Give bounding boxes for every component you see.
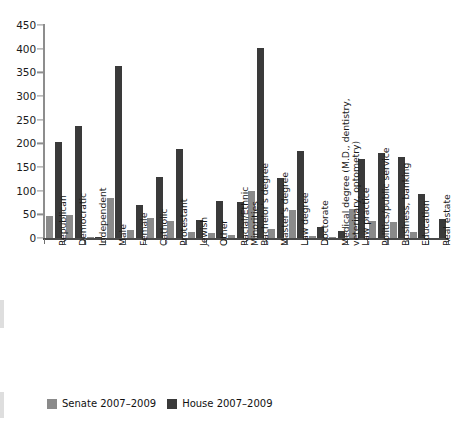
x-tick-label: Democratic bbox=[78, 193, 88, 246]
y-tick-label: 250 bbox=[16, 114, 36, 125]
x-tick-label: Female bbox=[139, 213, 149, 246]
chart-legend: Senate 2007–2009 House 2007–2009 bbox=[47, 399, 273, 409]
x-tick-label: Catholic bbox=[159, 209, 169, 246]
bar-senate bbox=[228, 235, 235, 238]
x-tick-label: Other bbox=[219, 220, 229, 246]
x-tick-label: Protestant bbox=[179, 199, 189, 246]
bar-group bbox=[106, 25, 126, 238]
y-tick-label: 100 bbox=[16, 185, 36, 196]
legend-label-senate: Senate 2007–2009 bbox=[62, 399, 156, 409]
x-tick-label: Racial/Ethnic Minorities bbox=[240, 187, 259, 246]
legend-swatch-senate bbox=[47, 399, 57, 409]
y-tick-label: 450 bbox=[16, 20, 36, 31]
bar-group bbox=[207, 25, 227, 238]
legend-item-senate: Senate 2007–2009 bbox=[47, 399, 156, 409]
y-tick-label: 300 bbox=[16, 91, 36, 102]
bar-senate bbox=[127, 230, 134, 238]
x-tick-label: Medical degree (M.D., dentistry, veterin… bbox=[341, 98, 360, 246]
x-tick-mark bbox=[44, 239, 45, 244]
legend-item-house: House 2007–2009 bbox=[167, 399, 272, 409]
x-tick-label: Education bbox=[421, 200, 431, 246]
x-tick-label: Bachelor's degree bbox=[260, 163, 270, 246]
bar-group bbox=[187, 25, 207, 238]
y-tick-label: 400 bbox=[16, 43, 36, 54]
x-tick-label: Republican bbox=[58, 195, 68, 246]
bar-senate bbox=[46, 216, 53, 238]
y-tick-label: 50 bbox=[23, 209, 36, 220]
x-tick-label: Law degree bbox=[300, 192, 310, 246]
x-tick-label: Master's degree bbox=[280, 172, 290, 246]
x-tick-label: Male bbox=[118, 224, 128, 246]
bar-group bbox=[146, 25, 166, 238]
y-tick-label: 200 bbox=[16, 138, 36, 149]
x-tick-label: Real estate bbox=[442, 194, 452, 246]
legend-label-house: House 2007–2009 bbox=[182, 399, 272, 409]
chart-figure: 050100150200250300350400450 RepublicanDe… bbox=[0, 0, 458, 421]
y-axis-labels: 050100150200250300350400450 bbox=[0, 0, 36, 421]
bar-house bbox=[115, 66, 122, 238]
bar-group bbox=[126, 25, 146, 238]
y-tick-label: 350 bbox=[16, 67, 36, 78]
legend-swatch-house bbox=[167, 399, 177, 409]
x-tick-label: Independent bbox=[98, 188, 108, 246]
x-tick-label: Law practice bbox=[361, 188, 371, 246]
y-tick-label: 0 bbox=[29, 233, 36, 244]
x-tick-label: Business, banking bbox=[401, 163, 411, 246]
y-tick-label: 150 bbox=[16, 162, 36, 173]
x-tick-label: Jewish bbox=[199, 217, 209, 246]
x-tick-label: Doctorate bbox=[320, 200, 330, 246]
bar-senate bbox=[329, 237, 336, 238]
x-tick-label: Politics/public service bbox=[381, 147, 391, 246]
